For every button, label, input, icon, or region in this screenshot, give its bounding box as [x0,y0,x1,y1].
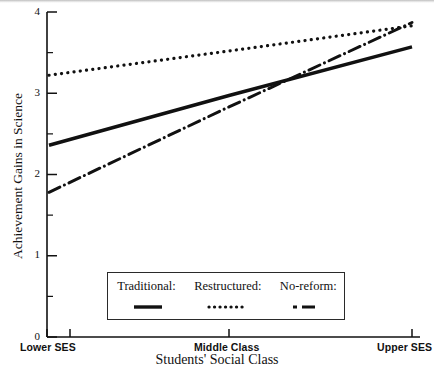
series-line-traditional [49,47,412,145]
chart-legend: Traditional: Restructured: No-reform: [107,272,345,320]
legend-swatch-dashdot [275,301,337,313]
y-tick-label-1: 1 [24,248,40,260]
chart-figure: 0 1 2 3 4 Lower SES Middle Class Upper S… [0,0,434,374]
series-line-restructured [49,26,412,75]
y-tick-label-3: 3 [24,86,40,98]
series-line-no-reform [49,23,412,193]
y-major-ticks [47,12,57,337]
y-axis-title: Achievement Gains in Science [10,66,26,286]
x-axis-title: Students' Social Class [0,352,434,368]
legend-label-traditional: Traditional: [117,279,176,294]
legend-label-no-reform: No-reform: [280,279,337,294]
legend-swatch-solid [117,301,179,313]
legend-labels-row: Traditional: Restructured: No-reform: [108,279,346,294]
x-major-ticks [47,329,412,337]
y-tick-label-2: 2 [24,167,40,179]
y-tick-label-4: 4 [24,5,40,17]
legend-swatch-dotted [196,301,258,313]
legend-label-restructured: Restructured: [194,279,261,294]
legend-samples-row [108,301,346,313]
